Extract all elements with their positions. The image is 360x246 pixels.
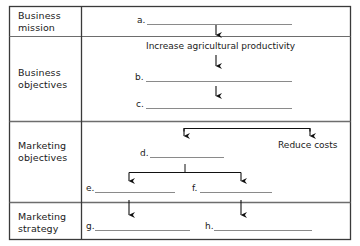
blank-tag-g: g. xyxy=(86,221,95,231)
row-label-marketing-strategy: Marketing strategy xyxy=(18,211,66,234)
blank-tag-f: f. xyxy=(192,183,197,193)
annotation-increase-agricultural-productivity: Increase agricultural productivity xyxy=(146,41,295,51)
blank-tag-h: h. xyxy=(205,221,214,231)
row-label-business-mission: Business mission xyxy=(18,10,61,33)
bracket-objectives-split xyxy=(184,129,310,132)
diagram-graphics xyxy=(0,0,360,246)
blank-tag-b: b. xyxy=(135,72,144,82)
annotation-reduce-costs: Reduce costs xyxy=(278,140,338,150)
row-label-marketing-objectives: Marketing objectives xyxy=(18,140,67,163)
blank-tag-e: e. xyxy=(86,183,94,193)
diagram-canvas: Business mission Business objectives Mar… xyxy=(0,0,360,246)
blank-tag-c: c. xyxy=(136,99,144,109)
blank-tag-d: d. xyxy=(140,148,149,158)
blank-tag-a: a. xyxy=(137,15,145,25)
row-label-business-objectives: Business objectives xyxy=(18,67,67,90)
